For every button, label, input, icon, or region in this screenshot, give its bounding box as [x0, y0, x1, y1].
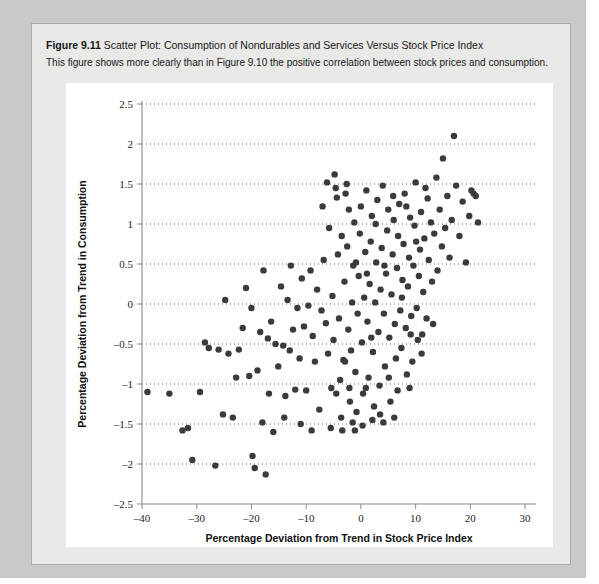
data-point: [281, 414, 287, 420]
data-point: [440, 155, 446, 161]
data-point: [328, 425, 334, 431]
data-point: [368, 238, 374, 244]
data-point: [377, 286, 383, 292]
data-point: [363, 385, 369, 391]
data-point: [369, 417, 375, 423]
data-point: [385, 206, 391, 212]
data-point: [252, 465, 258, 471]
data-point: [421, 235, 427, 241]
data-point: [391, 217, 397, 223]
data-point: [248, 305, 254, 311]
x-tick-label: 10: [410, 512, 422, 524]
data-point: [358, 203, 364, 209]
data-point: [294, 305, 300, 311]
data-point: [407, 214, 413, 220]
data-point: [388, 291, 394, 297]
data-point: [371, 403, 377, 409]
data-point: [225, 350, 231, 356]
data-point: [378, 245, 384, 251]
data-point: [266, 390, 272, 396]
data-point: [236, 346, 242, 352]
data-point: [339, 427, 345, 433]
data-point: [456, 233, 462, 239]
data-point: [144, 389, 150, 395]
x-tick-label: 0: [358, 512, 364, 524]
data-point: [380, 182, 386, 188]
data-point: [372, 221, 378, 227]
data-point: [392, 321, 398, 327]
data-point: [411, 222, 417, 228]
data-point: [386, 334, 392, 340]
data-point: [310, 333, 316, 339]
data-point: [404, 371, 410, 377]
data-point: [349, 419, 355, 425]
data-point: [360, 390, 366, 396]
data-point: [325, 350, 331, 356]
data-point: [386, 374, 392, 380]
data-point: [368, 334, 374, 340]
data-point: [428, 219, 434, 225]
data-point: [466, 213, 472, 219]
y-tick-label: –1: [121, 378, 133, 390]
data-point: [403, 325, 409, 331]
x-tick-label: –10: [297, 512, 315, 524]
data-point: [318, 307, 324, 313]
data-point: [185, 425, 191, 431]
data-point: [431, 230, 437, 236]
data-point: [348, 347, 354, 353]
data-point: [434, 267, 440, 273]
figure-panel: Figure 9.11 Scatter Plot: Consumption of…: [31, 23, 571, 565]
data-point: [259, 419, 265, 425]
data-point: [414, 305, 420, 311]
data-point: [356, 273, 362, 279]
data-point: [280, 342, 286, 348]
data-point: [381, 262, 387, 268]
y-axis-title: Percentage Deviation from Trend in Consu…: [76, 180, 88, 427]
y-tick-label: –1.5: [113, 418, 134, 430]
grid-lines: [142, 104, 536, 464]
data-point: [326, 225, 332, 231]
data-point: [339, 233, 345, 239]
data-point: [303, 387, 309, 393]
data-point: [412, 179, 418, 185]
axis-lines: [142, 101, 536, 504]
data-point: [308, 427, 314, 433]
data-point: [359, 339, 365, 345]
y-tick-label: –2.5: [113, 498, 134, 510]
data-point: [305, 302, 311, 308]
data-point: [288, 262, 294, 268]
data-point: [451, 133, 457, 139]
data-point: [215, 346, 221, 352]
data-point: [373, 259, 379, 265]
data-point: [353, 409, 359, 415]
data-point: [307, 267, 313, 273]
data-point: [365, 374, 371, 380]
data-point: [400, 241, 406, 247]
data-point: [345, 326, 351, 332]
x-axis-title: Percentage Deviation from Trend in Stock…: [205, 532, 472, 544]
data-point: [292, 386, 298, 392]
data-point: [396, 201, 402, 207]
data-point: [424, 195, 430, 201]
data-point: [407, 331, 413, 337]
data-point: [220, 411, 226, 417]
data-point: [398, 345, 404, 351]
data-point: [342, 358, 348, 364]
data-point: [284, 297, 290, 303]
data-point: [335, 251, 341, 257]
data-point: [413, 238, 419, 244]
data-point: [364, 270, 370, 276]
data-point: [212, 462, 218, 468]
data-point: [262, 471, 268, 477]
x-axis-ticks: –40–30–20–100102030: [133, 504, 531, 524]
data-point: [206, 345, 212, 351]
data-point: [334, 194, 340, 200]
data-point: [352, 369, 358, 375]
data-point: [260, 267, 266, 273]
data-point: [320, 257, 326, 263]
y-tick-label: –0.5: [113, 338, 134, 350]
data-point: [344, 243, 350, 249]
data-point: [380, 419, 386, 425]
data-point: [312, 358, 318, 364]
data-point: [324, 179, 330, 185]
